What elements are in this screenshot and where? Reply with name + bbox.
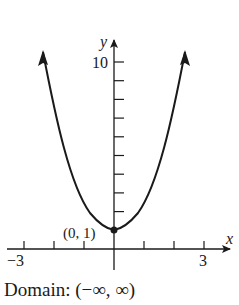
y-axis-label: y [98, 33, 108, 51]
y-ticks [114, 62, 124, 212]
x-axis-label: x [225, 230, 233, 247]
y-tick-label-10: 10 [92, 54, 108, 71]
curve-left-arrow-icon [38, 50, 48, 66]
domain-caption: Domain: (−∞, ∞) [4, 279, 135, 301]
x-tick-label-3: 3 [199, 252, 207, 269]
x-tick-label-neg3: −3 [7, 252, 24, 269]
graph: y x 10 −3 3 (0, 1) [0, 0, 239, 305]
curve-right-arrow-icon [180, 50, 190, 66]
point-label: (0, 1) [63, 225, 96, 242]
vertex-point [111, 227, 118, 234]
